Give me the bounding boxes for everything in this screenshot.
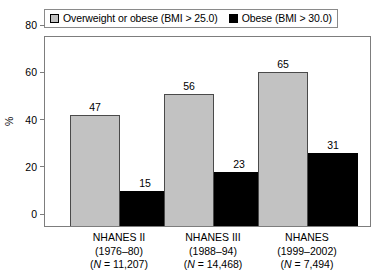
y-axis-label: % (3, 117, 15, 126)
y-tick-mark-20 (40, 166, 45, 167)
x-group-n-italic-1: N (187, 258, 195, 270)
bar-value-group-0-series-1: 15 (139, 177, 151, 189)
x-group-period-2: (1999–2002) (232, 245, 382, 259)
y-tick-mark-0 (40, 214, 45, 215)
y-tick-label-80: 80 (25, 19, 37, 31)
bar-value-group-2-series-0: 65 (277, 58, 289, 70)
black-square-swatch-icon (229, 14, 238, 23)
bar-value-group-0-series-0: 47 (89, 101, 101, 113)
x-group-n-italic-2: N (284, 258, 292, 270)
bar-value-group-1-series-0: 56 (183, 80, 195, 92)
x-group-n-2: (N = 7,494) (232, 258, 382, 272)
bar-value-group-2-series-1: 31 (327, 139, 339, 151)
bar-value-group-1-series-1: 23 (233, 158, 245, 170)
legend-label-obese: Obese (BMI > 30.0) (242, 13, 332, 24)
legend-entry-obese: Obese (BMI > 30.0) (229, 13, 332, 24)
y-tick-60: 60 (25, 66, 45, 78)
y-tick-label-40: 40 (25, 114, 37, 126)
bar-group-0-series-1: 15 (120, 191, 170, 226)
y-tick-mark-40 (40, 119, 45, 120)
y-tick-label-0: 0 (31, 208, 37, 220)
plot-area: 0 20 40 60 80 47 (44, 36, 371, 227)
x-group-n-italic-0: N (94, 258, 102, 270)
gray-square-swatch-icon (50, 14, 59, 23)
y-tick-0: 0 (31, 208, 45, 220)
x-group-name-2: NHANES (232, 231, 382, 245)
bar-chart: Overweight or obese (BMI > 25.0) Obese (… (0, 0, 390, 278)
legend-label-overweight-or-obese: Overweight or obese (BMI > 25.0) (63, 13, 218, 24)
y-tick-mark-60 (40, 72, 45, 73)
y-tick-80: 80 (25, 19, 45, 31)
bar-group-2-series-1: 31 (308, 153, 358, 226)
bar-group-1-series-1: 23 (214, 172, 264, 226)
bar-group-1-series-0: 56 (164, 94, 214, 226)
y-tick-mark-80 (40, 25, 45, 26)
y-tick-40: 40 (25, 114, 45, 126)
chart-legend: Overweight or obese (BMI > 25.0) Obese (… (44, 9, 338, 28)
x-group-label-2: NHANES (1999–2002) (N = 7,494) (232, 231, 382, 272)
x-group-n-suffix-2: = 7,494) (292, 258, 334, 270)
y-tick-20: 20 (25, 161, 45, 173)
bar-group-0-series-0: 47 (70, 115, 120, 226)
plot-inner: 0 20 40 60 80 47 (45, 37, 370, 226)
legend-entry-overweight-or-obese: Overweight or obese (BMI > 25.0) (50, 13, 218, 24)
y-tick-label-20: 20 (25, 161, 37, 173)
bar-group-2-series-0: 65 (258, 72, 308, 226)
y-tick-label-60: 60 (25, 66, 37, 78)
